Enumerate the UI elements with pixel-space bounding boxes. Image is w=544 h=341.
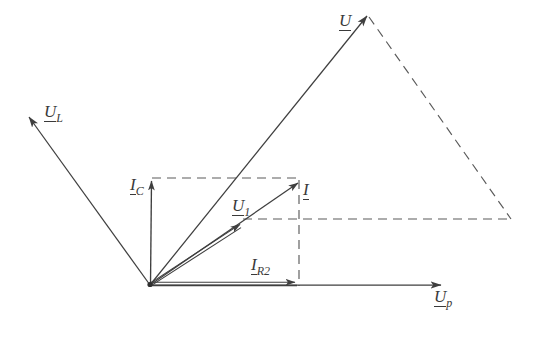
label-i-r2: IR2: [251, 256, 270, 275]
label-i-c-sub: C: [136, 185, 144, 197]
label-u: U: [339, 12, 351, 31]
label-u-p: Up: [434, 288, 452, 307]
vector-i: [150, 183, 298, 285]
origin-point: [147, 282, 152, 287]
label-u-p-base: U: [434, 288, 446, 307]
phasor-diagram: U UL IC I U1 IR2 Up: [0, 0, 544, 341]
vector-u: [150, 16, 367, 285]
label-u-1-sub: 1: [244, 206, 250, 218]
phasor-vectors: [29, 16, 441, 287]
dashed-u-diagonal: [369, 17, 511, 219]
label-i-base: I: [303, 181, 309, 200]
label-u-p-sub: p: [446, 297, 452, 309]
label-i: I: [303, 181, 309, 200]
vector-u-1-upper: [150, 224, 240, 283]
construction-lines: [152, 17, 511, 286]
vector-i-c: [151, 181, 152, 285]
label-u-1-base: U: [232, 197, 244, 216]
label-u-1: U1: [232, 197, 250, 216]
label-i-r2-sub: R2: [257, 265, 270, 277]
vector-u-1-lower: [150, 228, 241, 287]
label-u-l-sub: L: [56, 112, 63, 124]
vector-u-l: [29, 117, 150, 285]
label-u-l-base: U: [44, 103, 56, 122]
label-u-base: U: [339, 12, 351, 31]
label-i-c: IC: [130, 176, 144, 195]
phasor-canvas: [0, 0, 544, 341]
label-u-l: UL: [44, 103, 63, 122]
